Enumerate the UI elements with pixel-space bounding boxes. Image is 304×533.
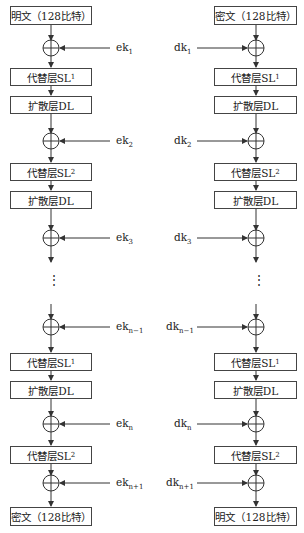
left-ellipsis: ⋮ xyxy=(48,278,60,282)
encryption-key-1: ek1 xyxy=(116,41,133,56)
left-input-plaintext: 明文（128比特） xyxy=(10,6,92,25)
decryption-key-n-minus-1: dkn−1 xyxy=(166,320,194,335)
left-diffusion-layer-1: 扩散层DL xyxy=(10,96,92,114)
left-substitution-layer-3: 代替层SL1 xyxy=(10,353,92,371)
right-diffusion-layer-3: 扩散层DL xyxy=(214,381,297,399)
encryption-key-2: ek2 xyxy=(116,134,133,149)
encryption-key-n-minus-1: ekn−1 xyxy=(116,320,143,335)
right-substitution-layer-2: 代替层SL2 xyxy=(214,163,297,181)
right-input-ciphertext: 密文（128比特） xyxy=(214,6,297,25)
encryption-key-n: ekn xyxy=(116,417,133,432)
right-diffusion-layer-1: 扩散层DL xyxy=(214,96,297,114)
right-substitution-layer-4: 代替层SL2 xyxy=(214,446,297,464)
left-substitution-layer-1: 代替层SL1 xyxy=(10,68,92,86)
right-substitution-layer-3: 代替层SL1 xyxy=(214,353,297,371)
decryption-key-2: dk2 xyxy=(174,134,192,149)
left-diffusion-layer-2: 扩散层DL xyxy=(10,191,92,209)
encryption-key-n-plus-1: ekn+1 xyxy=(116,476,143,491)
left-diffusion-layer-3: 扩散层DL xyxy=(10,381,92,399)
right-ellipsis: ⋮ xyxy=(253,278,265,282)
right-substitution-layer-1: 代替层SL1 xyxy=(214,68,297,86)
decryption-key-3: dk3 xyxy=(174,231,192,246)
left-output-ciphertext: 密文（128比特） xyxy=(10,507,92,526)
right-diffusion-layer-2: 扩散层DL xyxy=(214,191,297,209)
decryption-key-n-plus-1: dkn+1 xyxy=(166,476,194,491)
decryption-key-1: dk1 xyxy=(174,41,192,56)
left-substitution-layer-2: 代替层SL2 xyxy=(10,163,92,181)
left-substitution-layer-4: 代替层SL2 xyxy=(10,446,92,464)
decryption-key-n: dkn xyxy=(174,417,192,432)
right-output-plaintext: 明文（128比特） xyxy=(214,507,297,526)
encryption-key-3: ek3 xyxy=(116,231,133,246)
